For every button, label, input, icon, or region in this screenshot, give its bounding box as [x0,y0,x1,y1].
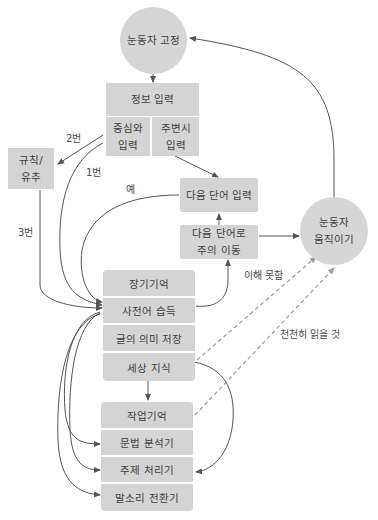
wm-grammar-parser: 문법 분석기 [101,430,193,455]
wm-phoneme-label: 말소리 전환기 [115,490,178,505]
ltm-lexical-acquisition: 사전어 습득 [103,298,195,323]
foveal-input-line1: 중심와 [113,120,143,137]
peripheral-input-line2: 입력 [166,137,186,154]
node-information-input-label: 정보 입력 [131,91,174,108]
wm-header-label: 작업기억 [127,408,167,423]
node-information-input: 정보 입력 [106,83,199,116]
node-eye-fixation-label: 눈동자 고정 [127,32,180,49]
edge-world-to-topic [194,362,233,472]
shift-attention-line2: 주의 이동 [197,242,240,259]
ltm-header: 장기기억 [103,270,195,296]
edge-label-path3: 3번 [18,224,33,239]
node-rule-inference: 규칙/ 유추 [8,148,54,189]
ltm-meaning-storage: 글의 의미 저장 [103,325,195,351]
wm-topic-label: 주제 처리기 [120,462,173,477]
edge-label-yes: 예 [126,181,135,196]
ltm-world-knowledge: 세상 지식 [103,353,195,381]
node-foveal-input: 중심와 입력 [106,117,150,156]
node-next-word-input: 다음 단어 입력 [180,178,258,212]
edge-eye-to-fixation [190,38,334,197]
foveal-input-line2: 입력 [118,137,138,154]
next-word-input-label: 다음 단어 입력 [186,187,253,204]
node-peripheral-input: 주변시 입력 [152,117,199,156]
ltm-meaning-label: 글의 의미 저장 [116,331,183,346]
eye-movement-line1: 눈동자 [319,214,349,231]
edge-label-read-slowly: 천천히 읽을 것 [280,326,340,341]
wm-phoneme-converter: 말소리 전환기 [101,484,193,511]
rule-inference-line2: 유추 [21,169,41,186]
ltm-lexical-label: 사전어 습득 [122,303,175,318]
edge-wm-to-eye-dashed [195,268,334,415]
edge-rule-to-lexical [40,190,102,308]
wm-header: 작업기억 [101,402,193,428]
edge-label-path1: 1번 [86,164,101,179]
eye-movement-line2: 움직이기 [314,231,354,248]
ltm-header-label: 장기기억 [129,276,169,291]
wm-parser-label: 문법 분석기 [120,435,173,450]
long-term-memory-stack: 장기기억 사전어 습득 글의 의미 저장 세상 지식 [103,270,195,381]
node-shift-attention: 다음 단어로 주의 이동 [180,225,258,259]
peripheral-input-line1: 주변시 [161,120,191,137]
working-memory-stack: 작업기억 문법 분석기 주제 처리기 말소리 전환기 [101,402,193,511]
edge-peripheral-to-nextword [175,156,218,177]
node-eye-movement: 눈동자 움직이기 [300,197,368,265]
rule-inference-line1: 규칙/ [19,152,43,169]
edge-label-path2: 2번 [66,130,81,145]
edge-label-not-understood: 이해 못함 [244,267,283,282]
node-eye-fixation: 눈동자 고정 [120,7,187,74]
ltm-world-label: 세상 지식 [127,360,170,375]
edge-lexical-to-shift [196,260,228,306]
wm-topic-processor: 주제 처리기 [101,457,193,482]
shift-attention-line1: 다음 단어로 [192,225,245,242]
